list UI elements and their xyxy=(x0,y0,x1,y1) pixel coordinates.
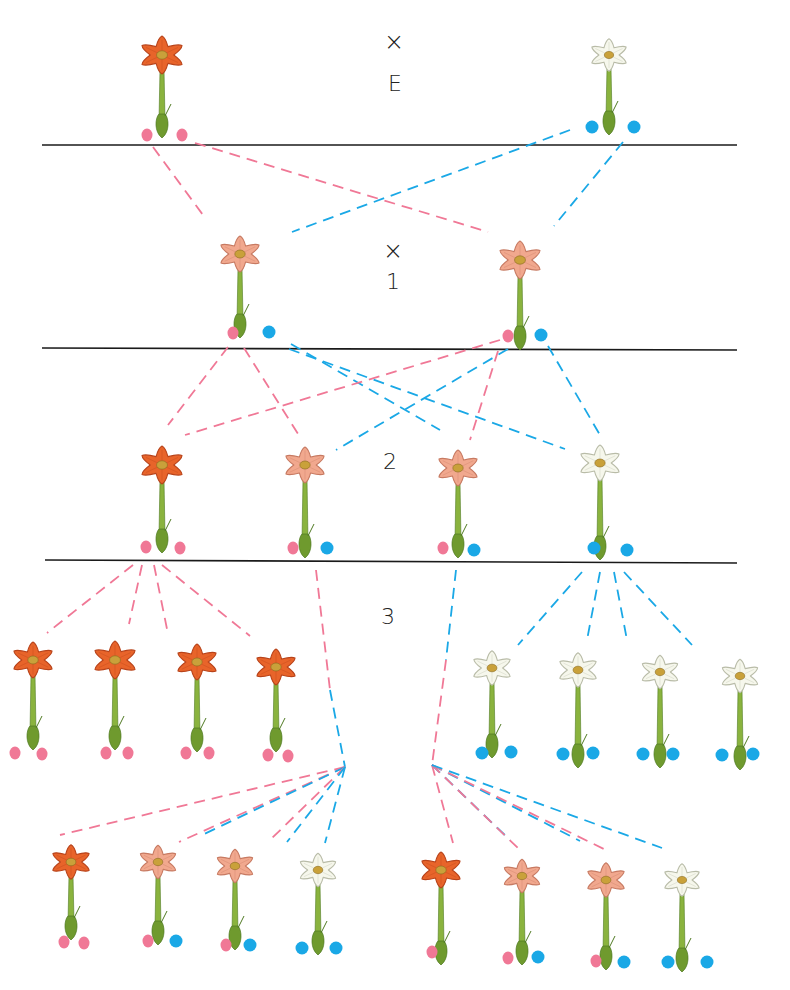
stem-icon xyxy=(194,676,200,734)
stem-icon xyxy=(68,875,74,922)
stem-icon xyxy=(657,685,663,750)
red-allele-connection xyxy=(432,765,453,843)
red-allele-dot xyxy=(10,747,21,760)
sepal-icon xyxy=(495,724,501,736)
flower-center-icon xyxy=(235,250,245,258)
calyx-icon xyxy=(299,534,311,558)
flower-white xyxy=(637,655,680,768)
stem-icon xyxy=(597,477,603,542)
flower-center-icon xyxy=(66,858,76,866)
sepal-icon xyxy=(461,524,467,536)
white-allele-dot xyxy=(244,939,257,952)
stem-icon xyxy=(455,482,461,540)
white-allele-connection xyxy=(554,142,623,226)
stem-icon xyxy=(679,893,685,954)
flower-red xyxy=(257,649,295,763)
white-allele-dot xyxy=(476,747,489,760)
stem-icon xyxy=(519,889,525,947)
white-allele-connection xyxy=(289,349,565,449)
flower-pink xyxy=(503,859,545,965)
red-allele-dot xyxy=(438,542,449,555)
sepal-icon xyxy=(523,316,529,328)
flower-white xyxy=(716,659,760,770)
sepal-icon xyxy=(609,936,615,948)
red-allele-dot xyxy=(177,129,188,142)
white-allele-dot xyxy=(532,951,545,964)
flower-center-icon xyxy=(192,658,202,666)
white-allele-dot xyxy=(628,121,641,134)
white-allele-connection xyxy=(325,767,345,843)
calyx-icon xyxy=(516,941,528,965)
calyx-icon xyxy=(152,921,164,945)
red-allele-dot xyxy=(591,955,602,968)
stem-icon xyxy=(155,875,161,927)
red-allele-connection xyxy=(60,767,345,835)
stem-icon xyxy=(302,479,308,540)
cross-symbol-f1: × xyxy=(378,239,408,263)
flower-center-icon xyxy=(601,876,611,884)
red-allele-connection xyxy=(185,340,500,435)
white-allele-dot xyxy=(637,748,650,761)
red-allele-connection xyxy=(432,765,520,850)
stem-icon xyxy=(575,683,581,750)
white-allele-connection xyxy=(614,572,627,640)
calyx-icon xyxy=(191,728,203,752)
stem-icon xyxy=(159,480,165,535)
flower-red xyxy=(141,446,186,554)
generation-label-1: 1 xyxy=(378,270,408,294)
sepal-icon xyxy=(200,718,206,730)
flower-center-icon xyxy=(110,656,121,664)
calyx-icon xyxy=(514,326,526,350)
calyx-icon xyxy=(156,114,168,138)
white-allele-dot xyxy=(505,746,518,759)
red-allele-dot xyxy=(101,747,112,760)
stem-icon xyxy=(30,674,36,732)
white-allele-connection xyxy=(432,765,662,848)
white-allele-dot xyxy=(662,956,675,969)
flower-pink xyxy=(217,849,256,951)
flower-center-icon xyxy=(436,866,446,874)
flower-center-icon xyxy=(313,866,323,873)
flower-pink xyxy=(140,845,182,947)
red-allele-connection xyxy=(195,143,488,232)
sepal-icon xyxy=(603,526,609,538)
generation-label-3: 3 xyxy=(373,605,403,629)
stem-icon xyxy=(737,689,743,752)
flower-white xyxy=(474,651,518,760)
sepal-icon xyxy=(444,931,450,943)
flower-center-icon xyxy=(515,256,526,264)
flower-center-icon xyxy=(300,461,310,469)
flower-pink xyxy=(286,447,334,558)
red-allele-dot xyxy=(503,952,514,965)
white-allele-dot xyxy=(618,956,631,969)
sepal-icon xyxy=(685,938,691,950)
flower-red xyxy=(142,36,188,141)
flower-pink xyxy=(500,241,548,350)
red-allele-connection xyxy=(168,347,228,425)
red-allele-dot xyxy=(123,747,134,760)
calyx-icon xyxy=(600,946,612,970)
calyx-icon xyxy=(109,726,121,750)
red-allele-connection xyxy=(154,565,167,629)
red-allele-dot xyxy=(181,747,192,760)
red-allele-dot xyxy=(143,935,154,948)
flower-center-icon xyxy=(487,664,497,672)
red-allele-dot xyxy=(79,937,90,950)
sepal-icon xyxy=(161,911,167,923)
allele-connections xyxy=(47,130,692,851)
flower-center-icon xyxy=(230,862,240,869)
stem-icon xyxy=(315,883,321,937)
calyx-icon xyxy=(734,746,746,770)
flower-pink xyxy=(438,450,481,558)
flower-red xyxy=(422,852,460,965)
red-allele-connection xyxy=(244,348,300,437)
flower-red xyxy=(10,642,53,761)
white-allele-dot xyxy=(321,542,334,555)
calyx-icon xyxy=(676,948,688,972)
white-allele-connection xyxy=(446,570,456,660)
white-allele-dot xyxy=(557,748,570,761)
red-allele-connection xyxy=(162,565,250,636)
red-allele-dot xyxy=(263,749,274,762)
calyx-icon xyxy=(572,744,584,768)
white-allele-connection xyxy=(330,690,345,767)
